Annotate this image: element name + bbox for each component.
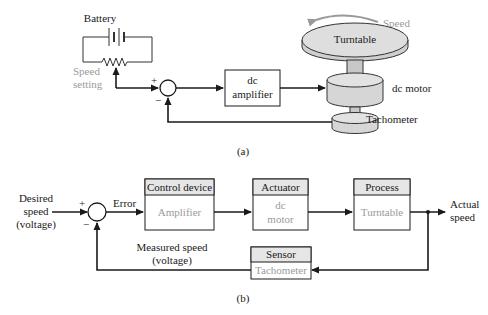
block-control-device: Control device Amplifier [145, 179, 214, 230]
turntable-label: Turntable [334, 33, 376, 45]
svg-text:dc: dc [275, 199, 286, 211]
svg-text:Sensor: Sensor [266, 248, 296, 260]
feedback-label-1: Measured speed [136, 241, 208, 253]
speed-setting-label-1: Speed [73, 65, 100, 77]
minus-sign-a: − [155, 94, 161, 106]
input-label-2: speed [23, 205, 49, 217]
summing-junction-b [88, 203, 106, 221]
block-process: Process Turntable [354, 179, 410, 230]
input-label-1: Desired [19, 192, 54, 204]
block-sensor: Sensor Tachometer [251, 247, 311, 279]
minus-sign-b: − [83, 218, 89, 230]
figure-a: Battery Speed setting + − dc amplifier [73, 12, 432, 158]
caption-a: (a) [237, 145, 250, 158]
svg-text:amplifier: amplifier [232, 88, 273, 100]
caption-b: (b) [237, 292, 250, 305]
figure-b: Desired speed (voltage) + − Error Contro… [16, 179, 479, 305]
speed-setting-label-2: setting [73, 78, 103, 90]
error-label: Error [113, 197, 137, 209]
svg-text:Actuator: Actuator [261, 181, 300, 193]
speed-control-diagram: Battery Speed setting + − dc amplifier [0, 0, 488, 315]
summing-junction-a [160, 80, 176, 96]
battery-icon [83, 28, 152, 62]
feedback-label-2: (voltage) [152, 254, 192, 267]
svg-text:Process: Process [365, 181, 399, 193]
svg-text:Amplifier: Amplifier [158, 206, 202, 218]
plus-sign-b: + [79, 197, 85, 209]
battery-label: Battery [84, 12, 117, 24]
svg-text:motor: motor [267, 213, 294, 225]
output-label-1: Actual [450, 198, 479, 210]
svg-text:dc: dc [247, 74, 258, 86]
svg-text:Tachometer: Tachometer [255, 264, 307, 276]
dc-motor-label: dc motor [392, 82, 432, 94]
dc-motor-icon [327, 73, 383, 107]
plus-sign-a: + [151, 74, 157, 86]
input-label-3: (voltage) [16, 218, 56, 231]
tachometer-label: Tachometer [366, 113, 418, 125]
output-label-2: speed [450, 211, 476, 223]
potentiometer-icon [102, 58, 127, 66]
block-actuator: Actuator dc motor [253, 179, 308, 230]
rotation-arrow-icon [316, 15, 378, 22]
svg-text:Control device: Control device [147, 181, 212, 193]
svg-text:Turntable: Turntable [361, 206, 403, 218]
